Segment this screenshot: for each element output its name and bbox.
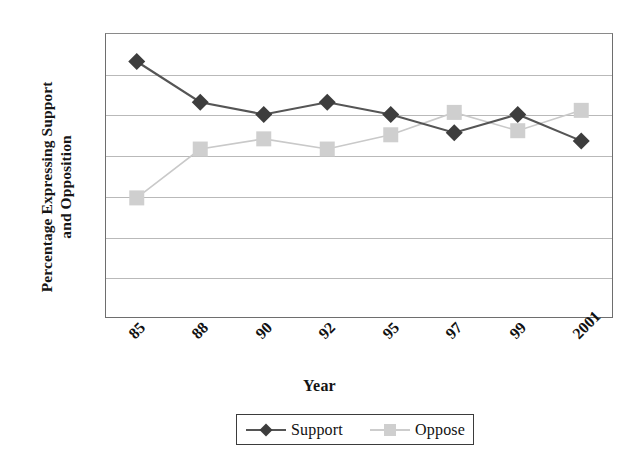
x-tick-85: 85 (125, 319, 149, 343)
line-chart: Percentage Expressing Support and Opposi… (0, 0, 639, 473)
legend-item-oppose[interactable]: Oppose (369, 421, 465, 439)
legend-label-support: Support (291, 421, 343, 439)
x-tick-92: 92 (315, 319, 339, 343)
x-tick-99: 99 (506, 319, 530, 343)
x-tick-90: 90 (252, 319, 276, 343)
x-axis-title: Year (0, 377, 639, 395)
x-tick-95: 95 (379, 319, 403, 343)
x-axis-ticks: 858890929597992001 (0, 0, 639, 473)
diamond-marker-icon (245, 422, 287, 438)
legend-item-support[interactable]: Support (245, 421, 343, 439)
chart-legend: Support Oppose (236, 414, 474, 445)
legend-label-oppose: Oppose (415, 421, 465, 439)
square-marker-icon (369, 422, 411, 438)
x-tick-2001: 2001 (569, 307, 604, 342)
x-tick-88: 88 (188, 319, 212, 343)
x-tick-97: 97 (442, 319, 466, 343)
